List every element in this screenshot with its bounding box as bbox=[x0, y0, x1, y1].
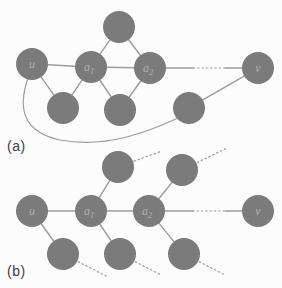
graph-b-node-t2 bbox=[166, 154, 198, 186]
graph-a-node-label-v: v bbox=[255, 61, 261, 75]
subfigure-a-label: (a) bbox=[7, 138, 26, 154]
graph-b-stub-b3 bbox=[199, 262, 223, 274]
graph-b-node-b1 bbox=[47, 238, 79, 270]
graph-a-node-b1 bbox=[47, 92, 79, 124]
graph-b-stub-b1 bbox=[78, 262, 107, 277]
graph-a-node-b2 bbox=[104, 94, 136, 126]
graph-a-edge-a1-b1 bbox=[72, 80, 82, 95]
graph-a-edge-t-a1 bbox=[100, 40, 110, 54]
graph-b-node-label-u: u bbox=[29, 204, 35, 218]
graph-a-edge-a1-b2 bbox=[100, 80, 111, 96]
graph-b-stub-t2 bbox=[197, 149, 226, 163]
graph-b-edge-u-b1 bbox=[41, 224, 53, 241]
graph-diagram-canvas: ua1a2vua1a2v bbox=[0, 0, 282, 288]
graph-a-node-t bbox=[103, 11, 135, 43]
graph-a-edge-u-a1 bbox=[48, 65, 75, 66]
graph-b-node-b3 bbox=[168, 238, 200, 270]
graph-figure: ua1a2vua1a2v (a) (b) bbox=[0, 0, 282, 288]
graph-b-stub-t1 bbox=[134, 151, 161, 161]
graph-a-edge-u-b1 bbox=[41, 77, 54, 95]
graph-b-stub-b2 bbox=[135, 262, 162, 276]
graph-b-node-t1 bbox=[102, 151, 134, 183]
graph-b-edge-a1-b2 bbox=[100, 224, 111, 240]
graph-a-curve-u-b3 bbox=[23, 78, 178, 142]
graph-b-edge-a1-t1 bbox=[99, 181, 109, 198]
graph-b-node-label-v: v bbox=[255, 204, 261, 218]
graph-a-edge-t-a2 bbox=[129, 40, 141, 55]
graph-a-edge-b3-v bbox=[203, 76, 244, 100]
graph-a-node-label-u: u bbox=[29, 57, 35, 71]
subfigure-b-label: (b) bbox=[7, 263, 26, 279]
graph-b-node-b2 bbox=[104, 238, 136, 270]
graph-a-edge-a2-b2 bbox=[129, 81, 140, 97]
graph-b-edge-a2-t2 bbox=[159, 182, 172, 198]
graph-b-edge-a2-b3 bbox=[159, 223, 174, 241]
graph-a-node-b3 bbox=[173, 92, 205, 124]
